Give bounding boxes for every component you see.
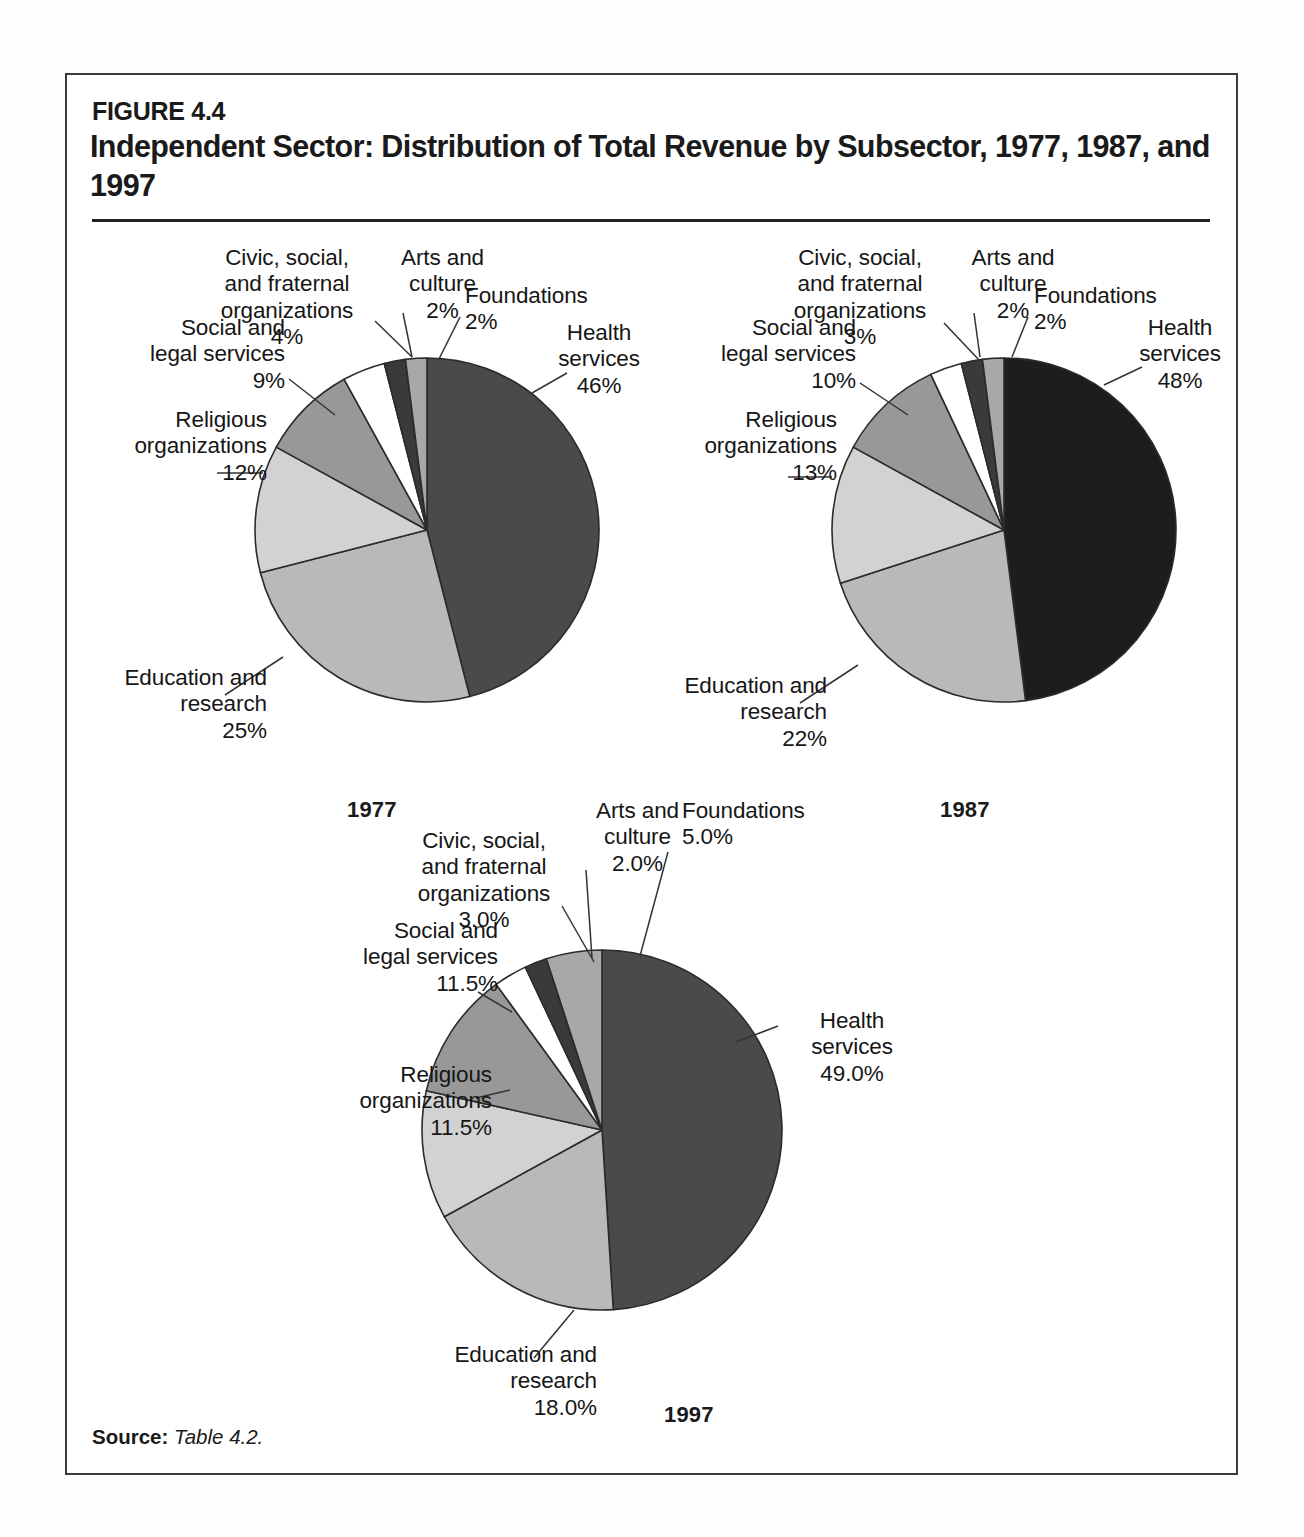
page-title: Independent Sector: Distribution of Tota… <box>90 127 1210 206</box>
title-divider <box>92 219 1210 222</box>
pie-1987-label-religious: Religious organizations 13% <box>632 407 837 486</box>
pie-1997-year: 1997 <box>664 1402 714 1428</box>
pie-1997-label-religious: Religious organizations 11.5% <box>282 1062 492 1141</box>
figure-number: FIGURE 4.4 <box>92 97 225 126</box>
pie-1977-label-social: Social and legal services 9% <box>95 315 285 394</box>
pie-1997-label-social: Social and legal services 11.5% <box>308 918 498 997</box>
pie-1997-label-education: Education and research 18.0% <box>382 1342 597 1421</box>
source-note: Source: Table 4.2. <box>92 1425 263 1449</box>
pie-1997-label-foundations: Foundations 5.0% <box>682 798 872 851</box>
pie-slice <box>1004 358 1176 701</box>
pie-chart-1987: Civic, social, and fraternal organizatio… <box>622 225 1240 845</box>
pie-1977-label-education: Education and research 25% <box>67 665 267 744</box>
pie-1987-label-education: Education and research 22% <box>612 673 827 752</box>
pie-1977-label-religious: Religious organizations 12% <box>67 407 267 486</box>
figure-frame: FIGURE 4.4 Independent Sector: Distribut… <box>65 73 1238 1475</box>
pie-slice <box>602 950 782 1310</box>
pie-1997-label-health: Health services 49.0% <box>782 1008 922 1087</box>
source-label: Source: <box>92 1425 168 1448</box>
pie-chart-1977: Civic, social, and fraternal organizatio… <box>67 225 667 845</box>
source-value: Table 4.2. <box>174 1425 263 1448</box>
pie-1987-label-social: Social and legal services 10% <box>666 315 856 394</box>
pie-1987-label-health: Health services 48% <box>1120 315 1240 394</box>
pie-1997-label-arts: Arts and culture 2.0% <box>580 798 695 877</box>
leader-line <box>586 870 592 958</box>
pie-chart-1997: Civic, social, and fraternal organizatio… <box>262 780 962 1440</box>
